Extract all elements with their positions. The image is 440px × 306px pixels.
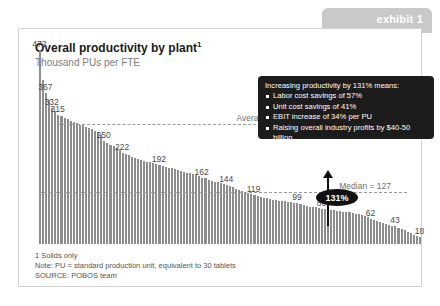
chart-bar <box>382 223 384 244</box>
chart-bar <box>229 186 231 244</box>
callout-bullet: EBIT increase of 34% per PU <box>265 112 427 123</box>
chart-bar <box>140 160 142 244</box>
chart-bar <box>250 194 252 244</box>
bar-value-label: 43 <box>390 215 399 225</box>
chart-bar <box>158 165 160 244</box>
chart-bar <box>113 146 115 244</box>
chart-bar <box>54 111 56 244</box>
chart-bar <box>168 168 170 244</box>
chart-bar <box>293 203 295 244</box>
chart-bar <box>367 217 369 244</box>
chart-bar <box>388 225 390 244</box>
chart-bar <box>257 196 259 244</box>
chart-bar <box>364 216 366 244</box>
chart-bar <box>379 222 381 244</box>
chart-bar <box>410 233 412 244</box>
chart-bar <box>155 164 157 244</box>
chart-bar <box>376 221 378 244</box>
chart-bar <box>137 159 139 244</box>
chart-bar <box>312 207 314 244</box>
chart-bar <box>109 145 111 244</box>
chart-bar <box>385 224 387 244</box>
bar-value-label: 99 <box>292 192 301 202</box>
bar-value-label: 367 <box>38 82 52 92</box>
bar-value-label: 192 <box>152 154 166 164</box>
chart-bar <box>152 163 154 244</box>
chart-bar <box>143 161 145 244</box>
chart-bar <box>342 212 344 244</box>
chart-bar <box>296 203 298 244</box>
chart-bar <box>266 198 268 244</box>
chart-bar <box>275 200 277 244</box>
callout-heading: Increasing productivity by 131% means: <box>265 81 427 90</box>
chart-bar <box>404 230 406 244</box>
chart-bar <box>263 198 265 244</box>
bar-value-label: 62 <box>366 208 375 218</box>
chart-bar <box>146 162 148 244</box>
chart-bar <box>394 226 396 244</box>
chart-bar <box>413 235 415 244</box>
chart-bar <box>358 214 360 244</box>
chart-bar <box>238 190 240 244</box>
chart-bar <box>348 212 350 244</box>
chart-bar <box>260 197 262 244</box>
exhibit-tab-label: exhibit 1 <box>377 13 423 25</box>
chart-plot-area: Average productivity of top quartile = 2… <box>19 29 423 288</box>
chart-bar <box>355 214 357 244</box>
chart-bar <box>306 206 308 244</box>
chart-bar <box>373 220 375 244</box>
chart-bar <box>134 158 136 244</box>
chart-bar <box>253 195 255 244</box>
chart-bar <box>336 211 338 244</box>
chart-bar <box>416 236 418 244</box>
bar-value-label: 119 <box>247 184 261 194</box>
chart-bar <box>162 166 164 244</box>
chart-bar <box>232 187 234 244</box>
chart-bar <box>244 192 246 244</box>
chart-bar <box>125 154 127 244</box>
chart-bar <box>269 199 271 244</box>
chart-bar <box>391 226 393 244</box>
chart-bar <box>397 228 399 244</box>
callout-bullet: Unit cost savings of 41% <box>265 102 427 113</box>
chart-bar <box>309 207 311 244</box>
chart-bar <box>352 213 354 244</box>
uplift-badge: 131% <box>316 189 358 206</box>
bar-value-label: 222 <box>115 142 129 152</box>
chart-bar <box>247 193 249 244</box>
chart-bar <box>116 148 118 244</box>
chart-bar <box>318 208 320 244</box>
bar-value-label: 18 <box>415 226 424 236</box>
chart-bar <box>223 184 225 244</box>
chart-bar <box>241 191 243 244</box>
chart-bar <box>284 201 286 244</box>
bar-value-label: 472 <box>32 39 46 49</box>
chart-bar <box>315 207 317 244</box>
chart-bar <box>106 143 108 244</box>
chart-bar <box>57 115 59 244</box>
chart-bar <box>165 167 167 244</box>
footnote-line: Note: PU = standard production unit, equ… <box>35 261 405 271</box>
chart-bar <box>278 201 280 245</box>
exhibit-screenshot: exhibit 1 Overall productivity by plant1… <box>0 0 440 306</box>
bar-value-label: 315 <box>51 104 65 114</box>
chart-bar <box>235 189 237 244</box>
chart-bar <box>345 212 347 244</box>
chart-bar <box>370 219 372 244</box>
chart-bar <box>119 150 121 244</box>
chart-bar <box>39 50 41 244</box>
chart-bar <box>122 153 124 244</box>
bar-value-label: 144 <box>219 174 233 184</box>
chart-bar <box>149 162 151 244</box>
callout-bullet: Labor cost savings of 57% <box>265 91 427 102</box>
footnote-line: 1 Solids only <box>35 251 405 261</box>
chart-bar <box>303 205 305 244</box>
bar-value-label: 162 <box>195 167 209 177</box>
chart-bar <box>339 211 341 244</box>
chart-bar <box>299 204 301 244</box>
chart-bar <box>287 202 289 244</box>
chart-bar <box>361 215 363 244</box>
chart-bar <box>128 155 130 244</box>
chart-bar <box>407 232 409 244</box>
callout-bullet: Raising overall industry profits by $40-… <box>265 123 427 144</box>
